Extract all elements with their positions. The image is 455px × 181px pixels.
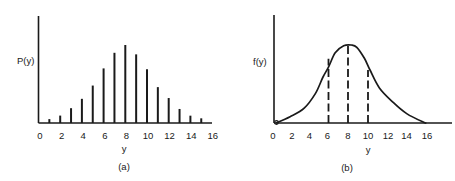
- x-tick-label: 8: [124, 130, 129, 141]
- chart-a-x-ticks: 0246810121416: [37, 130, 218, 141]
- chart-a-xlabel: y: [122, 143, 127, 154]
- x-tick-label: 2: [59, 130, 64, 141]
- x-tick-label: 12: [164, 130, 175, 141]
- chart-a: P(y) 0246810121416 y (a): [17, 16, 218, 172]
- x-tick-label: 6: [325, 130, 330, 141]
- x-tick-label: 8: [345, 130, 350, 141]
- chart-b-xlabel: y: [366, 144, 371, 155]
- x-tick-label: 16: [208, 130, 219, 141]
- chart-b-caption: (b): [341, 162, 353, 173]
- x-tick-label: 0: [37, 130, 42, 141]
- chart-a-ylabel: P(y): [17, 55, 34, 66]
- figure: P(y) 0246810121416 y (a) f(y) 0246810121…: [0, 0, 455, 181]
- x-tick-label: 10: [363, 130, 374, 141]
- chart-b-ylabel: f(y): [253, 56, 267, 67]
- chart-b: f(y) 0246810121416 y (b): [253, 15, 452, 173]
- x-tick-label: 12: [383, 130, 394, 141]
- chart-b-density-curve: [276, 45, 426, 123]
- x-tick-label: 14: [186, 130, 197, 141]
- x-tick-label: 4: [81, 130, 86, 141]
- x-tick-label: 2: [289, 130, 294, 141]
- x-tick-label: 16: [422, 130, 433, 141]
- x-tick-label: 14: [401, 130, 412, 141]
- chart-a-caption: (a): [118, 161, 130, 172]
- chart-b-x-ticks: 0246810121416: [270, 130, 432, 141]
- x-tick-label: 10: [143, 130, 154, 141]
- x-tick-label: 6: [102, 130, 107, 141]
- x-tick-label: 0: [270, 130, 275, 141]
- chart-a-bars: [49, 45, 201, 123]
- chart-b-dashed-lines: [329, 45, 369, 123]
- x-tick-label: 4: [307, 130, 312, 141]
